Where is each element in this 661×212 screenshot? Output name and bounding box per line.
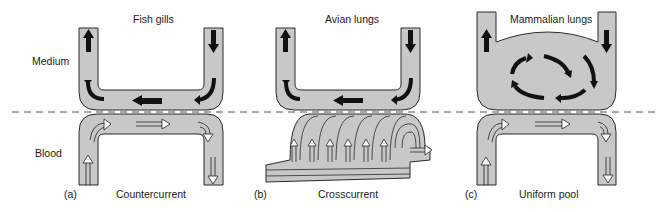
medium-label: Medium <box>32 55 69 67</box>
panel-c-caption: Uniform pool <box>519 188 579 200</box>
panel-b-title: Avian lungs <box>325 13 379 25</box>
panel-mammalian-lungs <box>477 12 616 185</box>
blood-label: Blood <box>35 147 62 159</box>
panel-fish-gills <box>79 28 223 185</box>
panel-a-caption: Countercurrent <box>116 188 186 200</box>
panel-b-letter: (b) <box>254 188 267 200</box>
panel-avian-lungs <box>266 28 432 182</box>
panel-a-letter: (a) <box>64 188 77 200</box>
panel-a-title: Fish gills <box>133 13 174 25</box>
gas-exchange-diagram <box>0 0 661 212</box>
panel-c-title: Mammalian lungs <box>510 13 592 25</box>
panel-c-letter: (c) <box>465 188 477 200</box>
panel-b-caption: Crosscurrent <box>318 188 378 200</box>
